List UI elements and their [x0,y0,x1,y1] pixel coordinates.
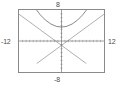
curve-line-positive [37,14,104,63]
axis-label-y-max: 8 [56,1,60,8]
axis-label-y-min: -8 [54,76,60,83]
axis-label-x-max: 12 [108,38,115,45]
axis-label-x-min: -12 [1,38,11,45]
plot-canvas [19,10,104,72]
plot-frame [18,9,105,73]
curve-line-negative [19,14,86,63]
graph-widget: 8 -8 -12 12 [0,0,124,88]
